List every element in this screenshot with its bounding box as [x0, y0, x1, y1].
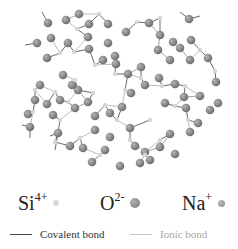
oxygen-atom: [101, 146, 110, 155]
oxygen-atom: [155, 74, 164, 83]
ionic-bond-icon: [130, 234, 152, 235]
oxygen-atom: [91, 126, 100, 135]
oxygen-atom: [131, 142, 140, 151]
silicon-atom: [72, 50, 76, 54]
oxygen-atom: [154, 46, 163, 55]
silicon-atom: [93, 63, 97, 67]
oxygen-atom: [169, 38, 178, 47]
oxygen-atom: [44, 19, 53, 28]
oxygen-atom: [112, 60, 121, 69]
oxygen-atom: [75, 10, 84, 19]
oxygen-atom: [182, 104, 191, 113]
oxygen-atom: [47, 34, 56, 43]
silicon-atom: [128, 138, 132, 142]
oxygen-atom: [124, 70, 133, 79]
silicon-atom: [143, 153, 147, 157]
o-atom-icon: [130, 198, 140, 208]
legend-covalent: Covalent bond: [10, 226, 104, 242]
oxygen-atom: [26, 123, 35, 132]
oxygen-atom: [141, 81, 150, 90]
silicon-atom: [98, 153, 102, 157]
oxygen-atom: [99, 56, 108, 65]
oxygen-atom: [88, 158, 97, 167]
silicon-atom: [75, 27, 79, 31]
oxygen-atom: [176, 44, 185, 53]
oxygen-atom: [79, 144, 88, 153]
oxygen-atom: [84, 98, 93, 107]
oxygen-atom: [214, 99, 223, 108]
silicon-atom: [139, 76, 143, 80]
legend-ionic: Ionic bond: [130, 226, 207, 242]
oxygen-atom: [186, 128, 195, 137]
oxygen-atom: [171, 150, 180, 159]
oxygen-atom: [54, 129, 63, 138]
oxygen-atom: [43, 54, 52, 63]
silicon-atom: [135, 20, 139, 24]
silicon-atom: [183, 84, 187, 88]
o-label: O2-: [100, 190, 124, 216]
silicon-atom: [198, 48, 202, 52]
legend-si: Si4+: [18, 190, 59, 216]
oxygen-atom: [85, 20, 94, 29]
oxygen-atom: [161, 99, 170, 108]
silicon-atom: [91, 91, 95, 95]
silicon-atom: [53, 90, 57, 94]
oxygen-atom: [127, 89, 136, 98]
silicon-atom: [103, 103, 107, 107]
oxygen-atom: [106, 133, 115, 142]
oxygen-atom: [156, 31, 165, 40]
oxygen-atom: [136, 159, 145, 168]
atom-legend: Si4+ O2- Na+: [0, 190, 238, 218]
oxygen-atom: [24, 110, 33, 119]
oxygen-atom: [137, 63, 146, 72]
silicon-atom: [213, 69, 217, 73]
oxygen-atom: [84, 33, 93, 42]
oxygen-atom: [62, 16, 71, 25]
oxygen-atom: [166, 56, 175, 65]
silicon-atom: [73, 78, 77, 82]
oxygen-atom: [36, 81, 45, 90]
oxygen-atom: [196, 92, 205, 101]
oxygen-atom: [146, 156, 155, 165]
silicon-atom: [113, 72, 117, 76]
oxygen-atom: [206, 106, 215, 115]
si-atom-icon: [53, 200, 59, 206]
oxygen-atom: [145, 19, 154, 28]
oxygen-atom: [33, 39, 42, 48]
silicon-atom: [186, 118, 190, 122]
silicon-atom: [58, 51, 62, 55]
silicon-atom: [58, 118, 62, 122]
oxygen-atom: [104, 39, 113, 48]
bond-legend: Covalent bond Ionic bond: [0, 226, 238, 242]
oxygen-atom: [111, 52, 120, 61]
silicon-atom: [158, 138, 162, 142]
oxygen-atom: [180, 93, 189, 102]
oxygen-atom: [118, 103, 127, 112]
oxygen-atom: [43, 100, 52, 109]
silicon-atom: [158, 16, 162, 20]
silicon-atom: [53, 140, 57, 144]
oxygen-atom: [187, 36, 196, 45]
oxygen-atom: [185, 15, 194, 24]
na-atom-icon: [218, 200, 225, 207]
oxygen-atom: [64, 39, 73, 48]
oxygen-atom: [71, 104, 80, 113]
oxygen-atom: [91, 112, 100, 121]
oxygen-atom: [156, 143, 165, 152]
legend-na: Na+: [182, 190, 225, 216]
covalent-bond-icon: [10, 234, 32, 235]
oxygen-atom: [31, 96, 40, 105]
oxygen-atom: [66, 142, 75, 151]
silicon-atom: [123, 88, 127, 92]
oxygen-atom: [171, 80, 180, 89]
na-label: Na+: [182, 190, 212, 216]
silicon-atom: [115, 118, 119, 122]
oxygen-atom: [186, 56, 195, 65]
covalent-bond-label: Covalent bond: [40, 228, 104, 240]
oxygen-atom: [49, 111, 58, 120]
glass-network-diagram: [0, 0, 238, 180]
silicon-atom: [160, 84, 164, 88]
oxygen-atom: [59, 71, 68, 80]
oxygen-atom: [126, 124, 135, 133]
oxygen-atom: [194, 119, 203, 128]
